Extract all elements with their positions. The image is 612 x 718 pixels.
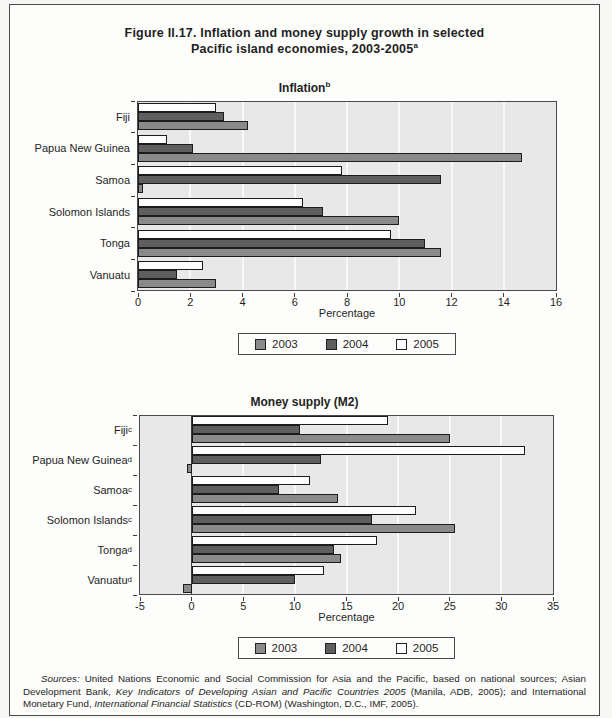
legend-swatch-2004 <box>326 339 337 350</box>
sources-italic-text: Key Indicators of Developing Asian and P… <box>116 686 406 697</box>
category-label-text: Solomon Islands <box>47 514 128 526</box>
sources-text: (CD-ROM) (Washington, D.C., IMF, 2005). <box>232 698 418 709</box>
y-tick-mark <box>131 132 135 133</box>
bar-samoa-2005 <box>192 476 311 485</box>
bar-tonga-2005 <box>192 536 378 545</box>
sources-italic-text: Sources: <box>41 673 80 684</box>
x-tick-label: 15 <box>329 600 365 612</box>
bar-fiji-2005 <box>138 103 216 112</box>
bar-vanuatu-2005 <box>192 566 324 575</box>
x-tick-label: 0 <box>174 600 210 612</box>
bar-samoa-2004 <box>192 485 280 494</box>
legend-row: 200320042005 <box>139 623 554 659</box>
legend: 200320042005 <box>238 637 456 659</box>
bar-tonga-2004 <box>192 545 334 554</box>
legend-item-2004: 2004 <box>326 338 369 350</box>
bar-tonga-2005 <box>138 230 391 239</box>
category-label-text: Tonga <box>100 237 130 249</box>
category-label-text: Tonga <box>98 544 128 556</box>
category-label: Vanuatud <box>10 565 139 595</box>
category-label-text: Samoa <box>95 174 130 186</box>
legend-label: 2004 <box>343 338 369 350</box>
bar-solomon-islands-2003 <box>192 524 455 533</box>
bar-tonga-2004 <box>138 239 425 248</box>
y-tick-mark <box>133 475 137 476</box>
x-tick-label: 12 <box>434 296 470 308</box>
category-label: Fijic <box>10 415 139 445</box>
bar-papua-new-guinea-2004 <box>138 144 193 153</box>
y-tick-mark <box>133 445 137 446</box>
y-tick-mark <box>133 595 137 596</box>
category-label: Tongad <box>10 535 139 565</box>
category-label-text: Vanuatu <box>90 269 130 281</box>
legend-swatch-2004 <box>325 643 336 654</box>
bar-fiji-2004 <box>138 112 224 121</box>
category-label: Solomon Islandsc <box>10 505 139 535</box>
gridline <box>294 102 296 290</box>
bar-tonga-2003 <box>138 248 441 257</box>
x-tick-label: 20 <box>380 600 416 612</box>
bar-fiji-2004 <box>192 425 300 434</box>
legend: 200320042005 <box>238 333 456 355</box>
category-label: Vanuatu <box>10 259 137 291</box>
legend-item-2003: 2003 <box>255 642 298 654</box>
bar-solomon-islands-2005 <box>192 506 416 515</box>
x-tick-label: 4 <box>225 296 261 308</box>
bar-vanuatu-2004 <box>138 270 177 279</box>
chart-title-text: Money supply (M2) <box>250 395 358 409</box>
x-axis-label: Percentage <box>137 307 557 319</box>
bar-papua-new-guinea-2003 <box>138 153 522 162</box>
bar-solomon-islands-2005 <box>138 198 303 207</box>
legend-label: 2005 <box>413 642 439 654</box>
bar-vanuatu-2005 <box>138 261 203 270</box>
bar-fiji-2003 <box>138 121 248 130</box>
bar-vanuatu-2003 <box>138 279 216 288</box>
category-label: Papua New Guinea <box>10 133 137 165</box>
category-label: Fiji <box>10 101 137 133</box>
bar-vanuatu-2003 <box>183 584 191 593</box>
bar-papua-new-guinea-2005 <box>138 135 167 144</box>
gridline <box>242 102 244 290</box>
legend-row: 200320042005 <box>137 319 557 355</box>
x-tick-label: 0 <box>120 296 156 308</box>
legend-swatch-2005 <box>396 339 407 350</box>
legend-item-2005: 2005 <box>396 642 439 654</box>
plot-area: -505101520253035 <box>139 415 554 595</box>
x-tick-label: -5 <box>122 600 158 612</box>
legend-swatch-2003 <box>255 643 266 654</box>
x-tick-label: 10 <box>381 296 417 308</box>
legend-item-2003: 2003 <box>255 338 298 350</box>
y-tick-mark <box>131 227 135 228</box>
x-tick-label: 25 <box>432 600 468 612</box>
figure-ii-17: Figure II.17. Inflation and money supply… <box>9 4 600 716</box>
category-labels: FijicPapua New GuineadSamoacSolomon Isla… <box>10 415 139 595</box>
bar-fiji-2005 <box>192 416 388 425</box>
x-tick-label: 14 <box>486 296 522 308</box>
category-label-text: Fiji <box>116 111 130 123</box>
gridline <box>398 102 400 290</box>
legend-label: 2004 <box>342 642 368 654</box>
bar-papua-new-guinea-2003 <box>187 464 191 473</box>
y-tick-mark <box>131 164 135 165</box>
x-tick-label: 16 <box>538 296 574 308</box>
y-tick-mark <box>131 101 135 102</box>
figure-title-line1: Figure II.17. Inflation and money supply… <box>125 26 485 40</box>
x-tick-label: 30 <box>483 600 519 612</box>
chart-body: FijiPapua New GuineaSamoaSolomon Islands… <box>10 101 599 291</box>
bar-tonga-2003 <box>192 554 342 563</box>
y-tick-mark <box>131 196 135 197</box>
x-tick-label: 35 <box>535 600 571 612</box>
x-tick-label: 8 <box>329 296 365 308</box>
figure-title-line2: Pacific island economies, 2003-2005 <box>191 42 413 56</box>
bar-fiji-2003 <box>192 434 450 443</box>
gridline <box>500 416 502 594</box>
bar-samoa-2003 <box>192 494 339 503</box>
bar-solomon-islands-2003 <box>138 216 399 225</box>
legend-label: 2005 <box>413 338 439 350</box>
bar-samoa-2004 <box>138 175 441 184</box>
bar-papua-new-guinea-2004 <box>192 455 321 464</box>
category-label-text: Papua New Guinea <box>32 454 127 466</box>
chart-title-text: Inflation <box>279 81 326 95</box>
category-label: Samoac <box>10 475 139 505</box>
category-label-text: Papua New Guinea <box>35 142 130 154</box>
